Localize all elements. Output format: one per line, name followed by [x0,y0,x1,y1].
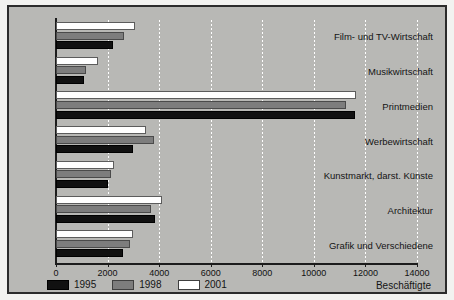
category-label: Werbewirtschaft [365,136,433,147]
x-tick-mark [159,263,160,267]
legend-swatch-icon [112,280,134,290]
bar-1995 [56,249,123,257]
bar-1998 [56,66,86,74]
category-label: Musikwirtschaft [368,66,433,77]
category-label: Printmedien [382,101,433,112]
bar-1998 [56,205,151,213]
x-tick-mark [314,263,315,267]
x-tick-label: 0 [53,268,58,278]
bar-2001 [56,22,135,30]
chart-legend: 199519982001 [47,279,236,290]
x-tick-label: 12000 [353,268,378,278]
legend-label: 1995 [74,279,96,290]
bar-2001 [56,126,146,134]
bar-group [56,55,417,90]
legend-swatch-icon [47,280,69,290]
bar-1998 [56,136,154,144]
x-tick-label: 2000 [98,268,118,278]
bar-2001 [56,230,133,238]
bar-group [56,194,417,229]
category-label: Grafik und Verschiedene [329,240,433,251]
x-axis-unit-label: Beschäftigte [376,280,431,291]
bar-1995 [56,180,108,188]
bar-1995 [56,76,84,84]
x-tick-label: 10000 [301,268,326,278]
bar-2001 [56,91,356,99]
legend-item-1995[interactable]: 1995 [47,279,96,290]
screenshot-root: 02000400060008000100001200014000 Film- u… [0,0,454,300]
legend-swatch-icon [178,280,200,290]
category-label: Film- und TV-Wirtschaft [334,31,433,42]
x-tick-label: 14000 [404,268,429,278]
x-tick-mark [211,263,212,267]
bar-group [56,89,417,124]
bar-1995 [56,111,355,119]
bar-2001 [56,57,98,65]
bar-2001 [56,161,114,169]
chart-figure-frame: 02000400060008000100001200014000 Film- u… [7,5,447,294]
bar-1998 [56,240,130,248]
x-tick-label: 4000 [149,268,169,278]
bar-1995 [56,41,113,49]
x-axis-line [55,263,418,265]
bar-1998 [56,170,111,178]
x-tick-mark [417,263,418,267]
category-label: Kunstmarkt, darst. Künste [324,170,433,181]
bar-2001 [56,196,162,204]
x-tick-mark [108,263,109,267]
legend-label: 1998 [139,279,161,290]
bar-1998 [56,32,124,40]
category-label: Architektur [388,205,433,216]
bar-1995 [56,215,155,223]
x-tick-mark [262,263,263,267]
x-tick-label: 8000 [252,268,272,278]
x-tick-mark [365,263,366,267]
legend-label: 2001 [205,279,227,290]
bar-group [56,124,417,159]
x-tick-label: 6000 [201,268,221,278]
legend-item-2001[interactable]: 2001 [178,279,227,290]
x-tick-mark [56,263,57,267]
bar-1995 [56,145,133,153]
legend-item-1998[interactable]: 1998 [112,279,161,290]
bar-1998 [56,101,346,109]
